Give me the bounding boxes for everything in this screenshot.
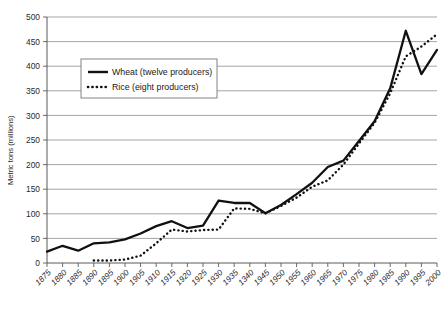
chart-container: 050100150200250300350400450500 187518801…	[0, 0, 447, 311]
line-chart: 050100150200250300350400450500 187518801…	[0, 0, 447, 311]
y-axis-title: Metric tons (millions)	[6, 115, 15, 185]
legend-label-rice: Rice (eight producers)	[112, 82, 199, 92]
y-tick-label: 300	[26, 111, 40, 121]
x-tick-label: 1890	[80, 268, 100, 288]
x-tick-label: 1980	[361, 268, 381, 288]
x-tick-label: 1885	[65, 268, 85, 288]
x-tick-label: 1955	[283, 268, 303, 288]
x-tick-label: 1910	[143, 268, 163, 288]
y-tick-label: 150	[26, 184, 40, 194]
chart-legend: Wheat (twelve producers) Rice (eight pro…	[81, 59, 217, 98]
x-tick-label: 1925	[190, 268, 210, 288]
x-tick-label: 1915	[158, 268, 178, 288]
x-tick-label: 1990	[392, 268, 412, 288]
y-tick-label: 450	[26, 37, 40, 47]
y-tick-label: 250	[26, 135, 40, 145]
x-tick-label: 1950	[268, 268, 288, 288]
y-tick-marks-group	[43, 17, 47, 263]
x-tick-label: 2000	[423, 268, 443, 288]
x-tick-labels-group: 1875188018851890189519001905191019151920…	[34, 268, 444, 288]
x-tick-label: 1935	[221, 268, 241, 288]
y-tick-label: 0	[35, 258, 40, 268]
y-tick-label: 200	[26, 160, 40, 170]
legend-label-wheat: Wheat (twelve producers)	[112, 67, 212, 77]
x-tick-label: 1995	[408, 268, 428, 288]
y-tick-labels-group: 050100150200250300350400450500	[26, 12, 40, 268]
x-tick-label: 1965	[314, 268, 334, 288]
y-tick-label: 100	[26, 209, 40, 219]
legend-box	[81, 59, 217, 98]
x-tick-marks-group	[47, 263, 437, 267]
x-tick-label: 1945	[252, 268, 272, 288]
x-tick-label: 1930	[205, 268, 225, 288]
y-tick-label: 50	[31, 234, 41, 244]
y-axis-title-group: Metric tons (millions)	[6, 115, 15, 185]
x-tick-label: 1895	[96, 268, 116, 288]
x-tick-label: 1985	[377, 268, 397, 288]
x-tick-label: 1920	[174, 268, 194, 288]
y-tick-label: 350	[26, 86, 40, 96]
x-tick-label: 1875	[34, 268, 54, 288]
y-tick-label: 400	[26, 61, 40, 71]
y-tick-label: 500	[26, 12, 40, 22]
x-tick-label: 1880	[49, 268, 69, 288]
x-tick-label: 1960	[299, 268, 319, 288]
x-tick-label: 1905	[127, 268, 147, 288]
x-tick-label: 1970	[330, 268, 350, 288]
gridlines-group	[47, 17, 437, 238]
x-tick-label: 1340	[236, 268, 256, 288]
x-tick-label: 1975	[346, 268, 366, 288]
x-tick-label: 1900	[112, 268, 132, 288]
